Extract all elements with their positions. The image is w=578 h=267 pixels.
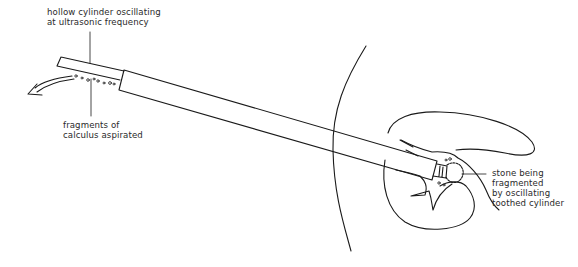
probe-wide-sheath bbox=[119, 70, 437, 180]
stone bbox=[446, 163, 463, 183]
label-stone-line3: by oscillating bbox=[492, 188, 564, 198]
aspiration-arrow bbox=[35, 76, 74, 92]
label-hollow-cylinder-line2: at ultrasonic frequency bbox=[47, 17, 161, 27]
label-fragments: fragments of calculus aspirated bbox=[63, 120, 143, 140]
body-wall-outline bbox=[333, 46, 366, 251]
kidney-outline-upper bbox=[388, 112, 534, 155]
label-fragments-line1: fragments of bbox=[63, 120, 143, 130]
label-stone-line4: toothed cylinder bbox=[492, 198, 564, 208]
renal-pelvis-lower bbox=[396, 170, 452, 210]
calculus-fragments bbox=[75, 75, 115, 85]
label-hollow-cylinder-line1: hollow cylinder oscillating bbox=[47, 7, 161, 17]
label-fragments-line2: calculus aspirated bbox=[63, 130, 143, 140]
label-hollow-cylinder: hollow cylinder oscillating at ultrasoni… bbox=[47, 7, 161, 27]
label-stone-line2: fragmented bbox=[492, 178, 564, 188]
renal-calyx-upper bbox=[400, 140, 418, 156]
label-stone-line1: stone being bbox=[492, 168, 564, 178]
label-stone: stone being fragmented by oscillating to… bbox=[492, 168, 564, 208]
